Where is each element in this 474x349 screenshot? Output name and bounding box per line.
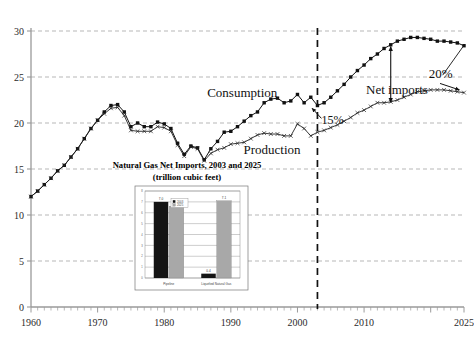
- x-tick-label-1980: 1980: [154, 317, 174, 328]
- pct-15-label: 15%: [321, 113, 343, 127]
- y-tick-label-30: 30: [14, 26, 24, 37]
- consumption-marker: [362, 63, 365, 66]
- consumption-marker: [149, 125, 152, 128]
- consumption-marker: [183, 153, 186, 156]
- consumption-marker: [209, 147, 212, 150]
- y-tick-label-15: 15: [14, 164, 24, 175]
- consumption-marker: [436, 39, 439, 42]
- inset-legend-label-2025: 2025: [177, 203, 184, 207]
- consumption-marker: [322, 101, 325, 104]
- x-tick-label-2010: 2010: [354, 317, 374, 328]
- consumption-marker: [282, 101, 285, 104]
- consumption-marker: [422, 37, 425, 40]
- consumption-marker: [176, 142, 179, 145]
- consumption-marker: [289, 99, 292, 102]
- production-label: Production: [244, 142, 302, 157]
- y-tick-label-5: 5: [19, 256, 24, 267]
- y-tick-label-20: 20: [14, 118, 24, 129]
- consumption-marker: [409, 36, 412, 39]
- inset-title-line1: Natural Gas Net Imports, 2003 and 2025: [113, 160, 262, 170]
- consumption-marker: [389, 43, 392, 46]
- chart-page: 051015202530 196019701980199020002010202…: [0, 0, 474, 349]
- net-imports-label: Net imports: [366, 82, 428, 97]
- inset-bar-value-2003-1: 0.4: [206, 269, 211, 273]
- consumption-marker: [216, 140, 219, 143]
- inset-category-label-0: Pipeline: [163, 282, 174, 286]
- x-tick-label-1990: 1990: [221, 317, 241, 328]
- canvas-background: [0, 0, 474, 349]
- inset-bar-2003-1: [201, 274, 216, 278]
- consumption-marker: [442, 39, 445, 42]
- consumption-marker: [449, 40, 452, 43]
- consumption-marker: [396, 39, 399, 42]
- consumption-marker: [342, 83, 345, 86]
- natural-gas-chart: 051015202530 196019701980199020002010202…: [0, 0, 474, 349]
- consumption-marker: [429, 38, 432, 41]
- inset-legend-swatch-2003: [173, 200, 176, 203]
- consumption-label: Consumption: [207, 85, 278, 100]
- consumption-marker: [329, 96, 332, 99]
- consumption-marker: [402, 38, 405, 41]
- consumption-marker: [336, 89, 339, 92]
- inset-bar-2025-1: [217, 201, 232, 278]
- consumption-marker: [356, 69, 359, 72]
- consumption-marker: [369, 57, 372, 60]
- consumption-marker: [136, 121, 139, 124]
- inset-legend-swatch-2025: [173, 204, 176, 207]
- inset-bar-value-2025-1: 7.1: [222, 196, 227, 200]
- consumption-marker: [143, 125, 146, 128]
- consumption-marker: [376, 52, 379, 55]
- consumption-marker: [309, 96, 312, 99]
- inset-bar-value-2003-0: 7.0: [159, 197, 164, 201]
- pct-20-label: 20%: [429, 66, 453, 81]
- consumption-marker: [236, 125, 239, 128]
- x-tick-label-2025: 2025: [454, 317, 474, 328]
- consumption-marker: [222, 131, 225, 134]
- consumption-marker: [249, 114, 252, 117]
- inset-bar-2025-0: [169, 206, 184, 278]
- consumption-marker: [456, 41, 459, 44]
- x-tick-label-1970: 1970: [88, 317, 108, 328]
- consumption-marker: [229, 130, 232, 133]
- consumption-marker: [163, 122, 166, 125]
- x-tick-label-1960: 1960: [21, 317, 41, 328]
- inset-category-label-1: Liquefied Natural Gas: [201, 282, 231, 286]
- consumption-marker: [103, 110, 106, 113]
- consumption-marker: [416, 36, 419, 39]
- consumption-marker: [382, 47, 385, 50]
- y-tick-label-10: 10: [14, 210, 24, 221]
- consumption-marker: [262, 101, 265, 104]
- consumption-marker: [123, 110, 126, 113]
- consumption-marker: [129, 125, 132, 128]
- consumption-marker: [296, 93, 299, 96]
- consumption-marker: [349, 75, 352, 78]
- x-tick-label-2000: 2000: [287, 317, 307, 328]
- y-tick-label-25: 25: [14, 72, 24, 83]
- inset-title-line2: (trillion cubic feet): [153, 172, 221, 182]
- consumption-marker: [156, 120, 159, 123]
- consumption-marker: [256, 110, 259, 113]
- consumption-marker: [302, 101, 305, 104]
- consumption-marker: [242, 119, 245, 122]
- inset-bar-2003-0: [154, 202, 169, 278]
- y-tick-label-0: 0: [19, 302, 24, 313]
